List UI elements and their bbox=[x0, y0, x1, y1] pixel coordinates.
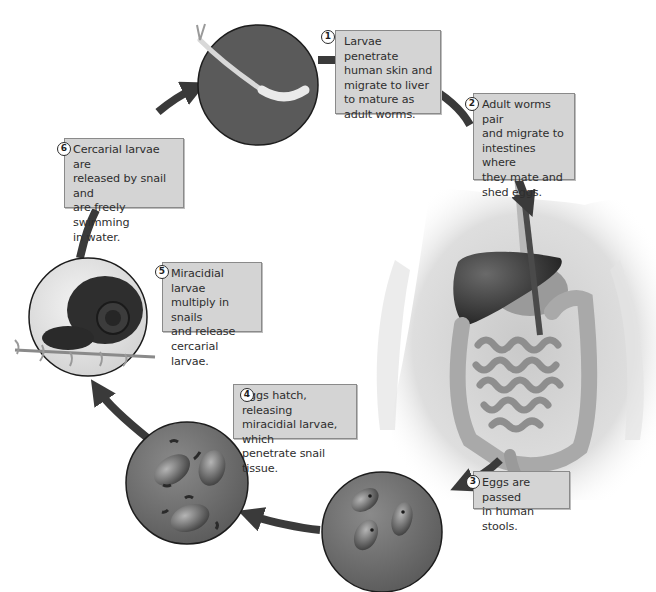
miracidia-circle bbox=[126, 422, 248, 544]
step-3-number-badge: 3 bbox=[466, 475, 480, 489]
step-5-line: cercarial larvae. bbox=[171, 340, 255, 369]
step-3-line: in human stools. bbox=[482, 505, 563, 534]
step-5-line: Miracidial larvae bbox=[171, 267, 255, 296]
step-4-line: penetrate snail tissue. bbox=[242, 447, 350, 476]
eggs-circle bbox=[322, 472, 442, 592]
step-3-label: Eggs are passed in human stools. bbox=[473, 471, 570, 509]
step-5-line: and release bbox=[171, 325, 255, 340]
step-4-number-badge: 4 bbox=[240, 388, 254, 402]
step-2-label: Adult worms pair and migrate to intestin… bbox=[473, 93, 575, 180]
step-4-line: Eggs hatch, releasing bbox=[242, 389, 350, 418]
step-2-line: shed eggs. bbox=[482, 186, 568, 201]
step-1-line: Larvae penetrate bbox=[344, 35, 434, 64]
larva-circle bbox=[197, 24, 318, 145]
step-1-line: human skin and bbox=[344, 64, 434, 79]
step-6-line: released by snail and bbox=[73, 172, 177, 201]
step-5-label: Miracidial larvae multiply in snails and… bbox=[162, 262, 262, 332]
step-1-number-badge: 1 bbox=[321, 30, 335, 44]
step-2-line: and migrate to bbox=[482, 127, 568, 142]
step-2-line: Adult worms pair bbox=[482, 98, 568, 127]
step-6-label: Cercarial larvae are released by snail a… bbox=[64, 138, 184, 208]
step-1-line: adult worms. bbox=[344, 108, 434, 123]
step-1-line: to mature as bbox=[344, 93, 434, 108]
step-5-number-badge: 5 bbox=[155, 265, 169, 279]
step-3-line: Eggs are passed bbox=[482, 476, 563, 505]
human-abdomen-illustration bbox=[377, 168, 656, 500]
step-2-line: they mate and bbox=[482, 171, 568, 186]
step-2-line: intestines where bbox=[482, 142, 568, 171]
step-1-line: migrate to liver bbox=[344, 79, 434, 94]
life-cycle-diagram: Larvae penetrate human skin and migrate … bbox=[0, 0, 656, 592]
step-2-number-badge: 2 bbox=[465, 97, 479, 111]
step-6-line: Cercarial larvae are bbox=[73, 143, 177, 172]
step-6-line: in water. bbox=[73, 231, 177, 246]
step-1-label: Larvae penetrate human skin and migrate … bbox=[335, 30, 441, 114]
snail-circle bbox=[15, 258, 155, 376]
step-5-line: multiply in snails bbox=[171, 296, 255, 325]
step-4-line: miracidial larvae, which bbox=[242, 418, 350, 447]
step-6-line: are freely swimming bbox=[73, 201, 177, 230]
step-6-number-badge: 6 bbox=[57, 142, 71, 156]
